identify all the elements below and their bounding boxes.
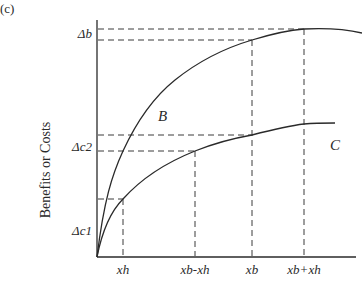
x-tick-xh: xh <box>116 262 129 277</box>
y-tick-delta-c1: Δc1 <box>71 223 92 238</box>
y-axis-title: Benefits or Costs <box>38 122 53 218</box>
x-tick-xb-plus-xh: xb+xh <box>286 262 320 277</box>
panel-label: (c) <box>0 1 14 16</box>
diagram-figure: (c) Benefits or Costs B C Δb Δc2 Δc1 xh … <box>0 0 362 286</box>
curve-c-label: C <box>330 137 341 153</box>
curve-c <box>97 123 335 257</box>
y-tick-delta-c2: Δc2 <box>71 139 92 154</box>
x-tick-xb: xb <box>245 262 259 277</box>
curve-b-label: B <box>158 108 167 124</box>
diagram-canvas: (c) Benefits or Costs B C Δb Δc2 Δc1 xh … <box>0 0 362 286</box>
curve-b <box>97 29 362 257</box>
y-tick-delta-b: Δb <box>77 26 93 41</box>
x-tick-xb-minus-xh: xb-xh <box>180 262 210 277</box>
